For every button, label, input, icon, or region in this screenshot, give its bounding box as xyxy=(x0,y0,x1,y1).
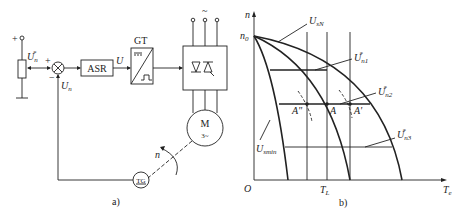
curve-usn xyxy=(254,36,402,180)
tachogenerator-label: TG xyxy=(136,177,145,185)
usmin-label: Usmin xyxy=(256,143,277,156)
point-a-double-prime xyxy=(305,102,309,106)
speed-label: n xyxy=(155,149,160,160)
usn-label: UsN xyxy=(309,15,324,28)
point-a xyxy=(325,102,329,106)
summer-plus-label: + xyxy=(45,55,51,66)
point-a-label: A xyxy=(329,105,337,116)
diagram-b-chart: n Te O n0 TL A" A A' UsN Un1* Un2* xyxy=(240,9,452,209)
x-axis-label: Te xyxy=(443,184,452,197)
motor-label: M xyxy=(201,118,210,129)
gt-label: GT xyxy=(134,35,147,46)
summer-minus-label: − xyxy=(49,72,55,83)
curve-usmin xyxy=(254,36,288,180)
point-a-double-prime-label: A" xyxy=(291,105,303,116)
un2-label: Un2* xyxy=(378,84,393,99)
diagram-a-block: + Un* + − Un ASR U GT xyxy=(12,5,227,208)
thyristor-converter-block xyxy=(183,46,227,90)
origin-label: O xyxy=(244,183,251,194)
motor-phase-label: 3~ xyxy=(201,132,209,140)
asr-label: ASR xyxy=(87,63,107,74)
asr-output-label: U xyxy=(116,55,124,66)
supply-plus-label: + xyxy=(12,33,18,44)
y-axis-label: n xyxy=(245,9,250,20)
un3-label: Un3* xyxy=(397,127,412,142)
ac-supply-terminals xyxy=(191,18,219,46)
figure-canvas: + Un* + − Un ASR U GT xyxy=(0,0,467,220)
n0-label: n0 xyxy=(240,30,249,43)
ac-symbol-label: ~ xyxy=(202,5,208,16)
un1-label: Un1* xyxy=(354,50,368,65)
point-a-prime xyxy=(348,102,352,106)
feedback-voltage-label: Un xyxy=(61,80,72,93)
reference-voltage-label: Un* xyxy=(27,49,38,64)
tl-label: TL xyxy=(320,184,330,197)
caption-a: a) xyxy=(112,196,120,208)
potentiometer-icon xyxy=(16,36,28,98)
gate-trigger-block xyxy=(131,48,153,84)
caption-b: b) xyxy=(339,197,347,209)
point-a-prime-label: A' xyxy=(353,105,363,116)
